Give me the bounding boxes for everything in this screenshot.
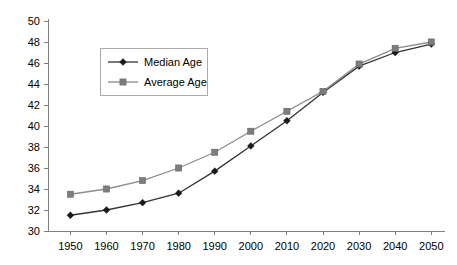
age-trend-line-chart: 3032343638404244464850 19501960197019801… [0,0,457,265]
y-tick-label: 36 [28,162,40,174]
chart-legend: Median AgeAverage Age [100,48,207,95]
data-point-marker [139,199,146,206]
y-tick-label: 34 [28,183,40,195]
x-tick-label: 2020 [311,240,335,252]
legend-label: Median Age [144,56,202,68]
data-point-marker [212,149,218,155]
y-tick-label: 44 [28,78,40,90]
data-point-marker [103,207,110,214]
legend-label: Average Age [144,76,207,88]
y-tick-label: 32 [28,204,40,216]
data-point-marker [356,61,362,67]
data-point-marker [176,165,182,171]
x-tick-label: 2040 [383,240,407,252]
data-point-marker [67,191,73,197]
data-point-marker [284,108,290,114]
x-axis-tick-labels: 1950196019701980199020002010202020302040… [58,240,443,252]
y-tick-label: 30 [28,225,40,237]
legend-marker-square-icon [120,79,126,85]
x-tick-label: 1990 [202,240,226,252]
data-point-marker [139,178,145,184]
x-tick-label: 2010 [275,240,299,252]
x-tick-label: 1970 [130,240,154,252]
y-tick-label: 38 [28,141,40,153]
x-tick-label: 2050 [419,240,443,252]
x-tick-label: 1950 [58,240,82,252]
y-axis-tick-labels: 3032343638404244464850 [28,15,40,237]
data-point-marker [103,186,109,192]
chart-canvas: 3032343638404244464850 19501960197019801… [0,0,457,265]
x-tick-label: 1980 [166,240,190,252]
data-point-marker [248,128,254,134]
data-point-marker [392,45,398,51]
data-point-marker [67,212,74,219]
data-point-marker [320,88,326,94]
y-tick-label: 48 [28,36,40,48]
x-tick-label: 2030 [347,240,371,252]
y-tick-label: 42 [28,99,40,111]
x-tick-label: 2000 [239,240,263,252]
x-tick-label: 1960 [94,240,118,252]
y-tick-label: 40 [28,120,40,132]
data-point-marker [428,39,434,45]
data-point-marker [175,190,182,197]
y-tick-label: 46 [28,57,40,69]
y-tick-label: 50 [28,15,40,27]
